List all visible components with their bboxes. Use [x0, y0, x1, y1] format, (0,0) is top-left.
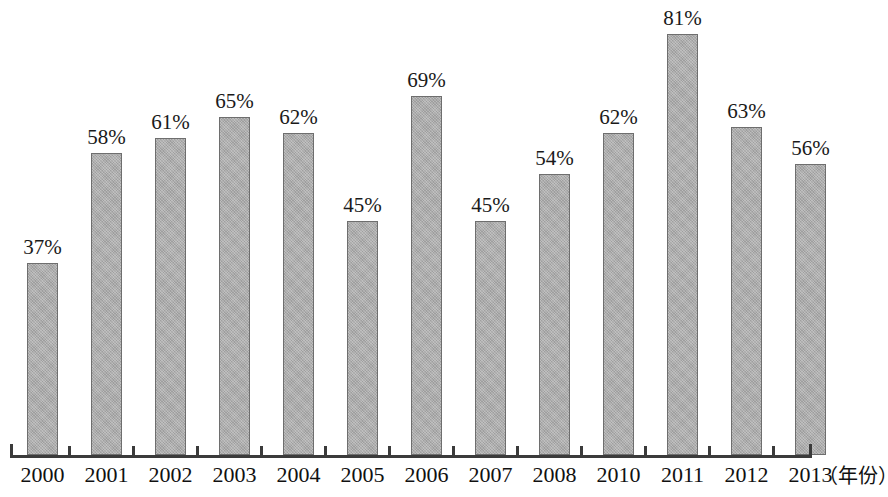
bar — [411, 96, 442, 455]
x-axis-tick — [196, 446, 199, 456]
bar — [539, 174, 570, 455]
bar-chart: 37%200058%200161%200265%200362%200445%20… — [0, 0, 888, 497]
x-axis-tick-label: 2012 — [712, 462, 782, 488]
bar-value-label: 81% — [648, 8, 718, 29]
bar-value-label: 63% — [712, 101, 782, 122]
bar-value-label: 61% — [136, 112, 206, 133]
x-axis-tick-label: 2001 — [72, 462, 142, 488]
x-axis-tick-label: 2008 — [520, 462, 590, 488]
x-axis-tick-label: 2007 — [456, 462, 526, 488]
bar-value-label: 56% — [776, 138, 846, 159]
bar — [91, 153, 122, 455]
x-axis-tick — [516, 446, 519, 456]
bar — [155, 138, 186, 455]
x-axis-tick — [68, 446, 71, 456]
bar-value-label: 37% — [8, 237, 78, 258]
x-axis-tick — [324, 446, 327, 456]
x-axis-tick — [772, 446, 775, 456]
bar — [731, 127, 762, 455]
bar-value-label: 65% — [200, 91, 270, 112]
x-axis-line — [10, 455, 812, 458]
bar — [27, 263, 58, 455]
x-axis-tick — [388, 446, 391, 456]
bar-value-label: 62% — [264, 107, 334, 128]
x-axis-tick-label: 2004 — [264, 462, 334, 488]
x-axis-tick — [132, 446, 135, 456]
bar — [667, 34, 698, 455]
x-axis-tick-label: 2002 — [136, 462, 206, 488]
x-axis-tick — [452, 446, 455, 456]
bar-value-label: 58% — [72, 127, 142, 148]
bar-value-label: 54% — [520, 148, 590, 169]
plot-area: 37%200058%200161%200265%200362%200445%20… — [0, 0, 888, 497]
bar-value-label: 62% — [584, 107, 654, 128]
bar — [475, 221, 506, 455]
bar-value-label: 45% — [456, 195, 526, 216]
x-axis-tick-label: 2011 — [648, 462, 718, 488]
bar — [603, 133, 634, 455]
bar-value-label: 45% — [328, 195, 398, 216]
bar-value-label: 69% — [392, 70, 462, 91]
bar — [347, 221, 378, 455]
x-axis-tick — [644, 446, 647, 456]
x-axis-tick-label: 2010 — [584, 462, 654, 488]
x-axis-tick — [580, 446, 583, 456]
x-axis-caption: （年份） — [818, 463, 888, 489]
x-axis-tick-label: 2000 — [8, 462, 78, 488]
bar — [795, 164, 826, 455]
x-axis-tick-label: 2005 — [328, 462, 398, 488]
x-axis-tick — [708, 446, 711, 456]
x-axis-left-cap — [10, 444, 13, 456]
x-axis-tick-label: 2006 — [392, 462, 462, 488]
x-axis-tick — [260, 446, 263, 456]
x-axis-right-cap — [809, 444, 812, 456]
x-axis-tick-label: 2003 — [200, 462, 270, 488]
bar — [283, 133, 314, 455]
bar — [219, 117, 250, 455]
